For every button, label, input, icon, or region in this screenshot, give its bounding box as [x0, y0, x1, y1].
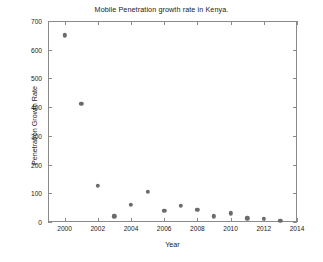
- data-point: [96, 184, 100, 188]
- x-axis-tick-label: 2014: [277, 225, 317, 232]
- data-point: [162, 208, 166, 212]
- x-axis-tick-top: [297, 21, 298, 25]
- data-point: [245, 216, 249, 220]
- x-axis-title: Year: [48, 240, 297, 249]
- data-point: [79, 101, 83, 105]
- data-point: [145, 190, 149, 194]
- data-point: [228, 211, 232, 215]
- data-point: [195, 207, 199, 211]
- data-point: [62, 33, 66, 37]
- y-axis-tick-label: 700: [2, 18, 42, 25]
- plot-data-area: [48, 21, 297, 222]
- y-axis-tick: [48, 222, 52, 223]
- data-point: [112, 214, 116, 218]
- chart-title: Mobile Penetration growth rate in Kenya.: [0, 5, 323, 14]
- data-point: [179, 204, 183, 208]
- y-axis-tick-right: [293, 222, 297, 223]
- data-point: [129, 203, 133, 207]
- data-point: [262, 217, 266, 221]
- y-axis-title: Penetration Growth Rate: [30, 46, 39, 206]
- chart-figure: Mobile Penetration growth rate in Kenya.…: [0, 0, 323, 262]
- x-axis-tick: [297, 218, 298, 222]
- y-axis-tick-label: 0: [2, 219, 42, 226]
- data-point: [212, 214, 216, 218]
- data-point: [278, 218, 282, 222]
